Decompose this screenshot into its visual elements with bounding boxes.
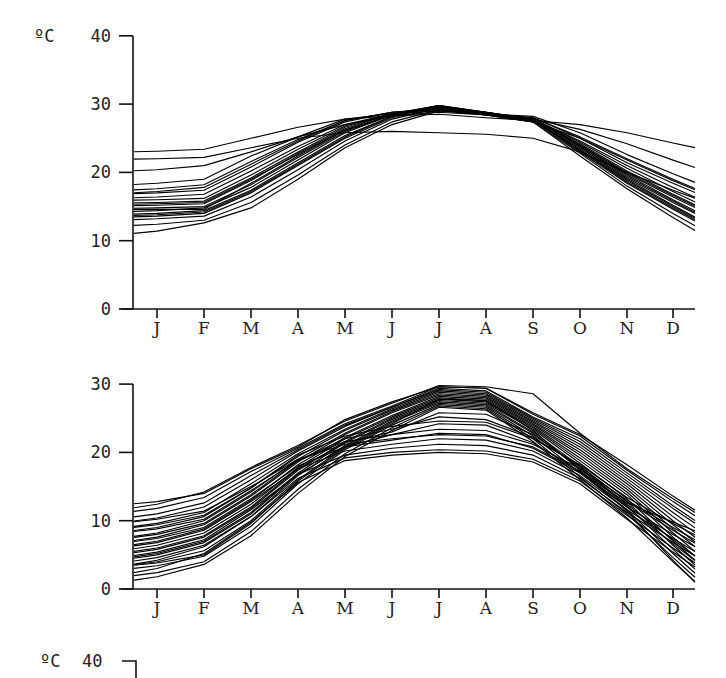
month-label: O [573, 318, 587, 338]
series-line [134, 106, 695, 205]
y-tick-label-40: 40 [82, 651, 102, 671]
y-tick-label: 20 [91, 442, 111, 462]
month-label: A [291, 598, 305, 618]
month-label: M [242, 318, 259, 338]
month-label: J [387, 598, 396, 618]
y-tick-label: 30 [91, 94, 111, 114]
month-label: J [152, 318, 161, 338]
series-line [134, 111, 695, 185]
month-label: F [198, 318, 210, 338]
panel-middle: 0102030JFMAMJJASOND [91, 374, 695, 618]
series-line [134, 107, 695, 214]
month-label: J [152, 598, 161, 618]
month-label: O [573, 598, 587, 618]
month-label: A [479, 318, 493, 338]
y-axis-corner [122, 661, 136, 678]
series-line [134, 399, 695, 582]
axes-top: 010203040JFMAMJJASOND [91, 26, 695, 338]
month-label: S [527, 598, 539, 618]
series-group-top [134, 106, 695, 234]
y-tick-label: 0 [101, 299, 111, 319]
y-tick-label: 20 [91, 162, 111, 182]
month-label: S [527, 318, 539, 338]
month-label: J [434, 318, 443, 338]
month-label: J [434, 598, 443, 618]
y-tick-label: 0 [101, 579, 111, 599]
y-tick-label: 30 [91, 374, 111, 394]
y-tick-label: 10 [91, 511, 111, 531]
month-label: M [336, 318, 353, 338]
month-label: N [620, 318, 635, 338]
temperature-chart: 010203040JFMAMJJASOND ºC 0102030JFMAMJJA… [0, 0, 726, 678]
month-label: F [198, 598, 210, 618]
y-tick-label: 40 [91, 26, 111, 46]
month-label: J [387, 318, 396, 338]
series-line [134, 114, 695, 152]
month-label: M [242, 598, 259, 618]
month-label: D [666, 318, 680, 338]
month-label: N [620, 598, 635, 618]
unit-label-top: ºC [34, 26, 54, 46]
month-label: D [666, 598, 680, 618]
series-line [134, 131, 695, 198]
panel-top: 010203040JFMAMJJASOND ºC [34, 26, 695, 338]
series-group-middle [134, 386, 695, 583]
month-label: A [479, 598, 493, 618]
unit-label-bottom: ºC [40, 651, 60, 671]
month-label: A [291, 318, 305, 338]
y-tick-label: 10 [91, 231, 111, 251]
series-line [134, 106, 695, 208]
panel-bottom-partial: ºC 40 [40, 651, 136, 678]
month-label: M [336, 598, 353, 618]
